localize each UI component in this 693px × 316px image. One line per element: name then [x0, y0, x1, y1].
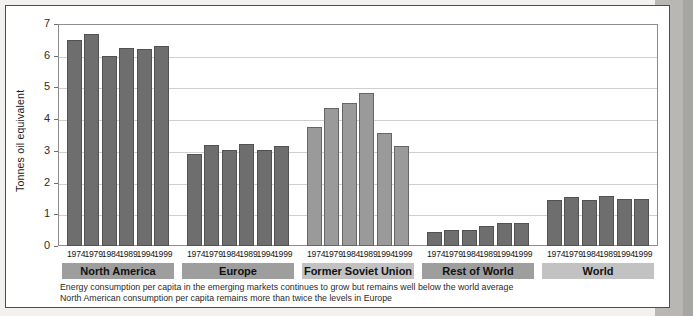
x-axis-tick-1994: 1994 [617, 249, 632, 259]
bar [342, 103, 357, 246]
bar [394, 146, 409, 246]
group-band-slot: World [538, 263, 658, 279]
year-label-group: 197419791984198919941999 [58, 247, 178, 260]
x-axis-tick-1979: 1979 [84, 249, 99, 259]
bar-group-europe [178, 24, 298, 246]
y-axis-tick-5: 5 [28, 80, 50, 92]
x-axis-tick-1984: 1984 [222, 249, 237, 259]
x-axis-tick-1989: 1989 [119, 249, 134, 259]
bar [102, 56, 117, 246]
x-axis-tick-1994: 1994 [137, 249, 152, 259]
bar [84, 34, 99, 246]
group-label-world: World [542, 263, 654, 279]
chart-frame: Tonnes oil equivalent 01234567 197419791… [5, 5, 670, 308]
year-label-group: 197419791984198919941999 [418, 247, 538, 260]
x-axis-tick-1999: 1999 [634, 249, 649, 259]
bar [187, 154, 202, 246]
x-axis-tick-1984: 1984 [582, 249, 597, 259]
x-axis-tick-1994: 1994 [257, 249, 272, 259]
x-axis-tick-1974: 1974 [307, 249, 322, 259]
y-axis-tick-1: 1 [28, 207, 50, 219]
bar [444, 230, 459, 246]
x-axis-tick-1974: 1974 [67, 249, 82, 259]
x-axis-tick-1979: 1979 [204, 249, 219, 259]
bar [377, 133, 392, 246]
x-axis-tick-1999: 1999 [514, 249, 529, 259]
bar [599, 196, 614, 246]
group-band-slot: Rest of World [418, 263, 538, 279]
y-axis-tick-0: 0 [28, 239, 50, 251]
x-axis-tick-1994: 1994 [497, 249, 512, 259]
bar [479, 226, 494, 246]
bar-group-former-soviet-union [298, 24, 418, 246]
bar [547, 200, 562, 246]
bar [154, 46, 169, 246]
group-label-north-america: North America [62, 263, 174, 279]
bar [462, 230, 477, 246]
bar [564, 197, 579, 246]
bar [514, 223, 529, 246]
x-axis-tick-1984: 1984 [342, 249, 357, 259]
x-axis-tick-1989: 1989 [479, 249, 494, 259]
x-axis-tick-1979: 1979 [324, 249, 339, 259]
group-band-slot: Europe [178, 263, 298, 279]
chart-caption: Energy consumption per capita in the eme… [60, 282, 660, 305]
bar [257, 150, 272, 246]
x-axis-tick-1994: 1994 [377, 249, 392, 259]
year-label-group: 197419791984198919941999 [178, 247, 298, 260]
caption-line-1: Energy consumption per capita in the eme… [60, 282, 660, 293]
group-label-rest-of-world: Rest of World [422, 263, 534, 279]
group-label-europe: Europe [182, 263, 294, 279]
bar-group-north-america [58, 24, 178, 246]
x-axis-tick-1989: 1989 [239, 249, 254, 259]
bar [222, 150, 237, 246]
x-axis-tick-1974: 1974 [187, 249, 202, 259]
bar [204, 145, 219, 246]
x-axis-year-labels: 1974197919841989199419991974197919841989… [58, 247, 658, 260]
bar [324, 108, 339, 246]
figure-panel: Tonnes oil equivalent 01234567 197419791… [0, 0, 693, 316]
group-band-slot: Former Soviet Union [298, 263, 418, 279]
x-axis-tick-1979: 1979 [564, 249, 579, 259]
scan-edge-strip-inner [683, 0, 693, 316]
y-axis-tick-4: 4 [28, 112, 50, 124]
bar-group-world [538, 24, 658, 246]
caption-line-2: North American consumption per capita re… [60, 293, 660, 304]
bar [239, 144, 254, 246]
bar [137, 49, 152, 246]
x-axis-tick-1999: 1999 [394, 249, 409, 259]
bar-groups [58, 24, 658, 246]
y-axis-tick-3: 3 [28, 144, 50, 156]
bar [274, 146, 289, 246]
x-axis-tick-1989: 1989 [599, 249, 614, 259]
y-axis-tick-2: 2 [28, 176, 50, 188]
bar [307, 127, 322, 246]
bar [359, 93, 374, 246]
year-label-group: 197419791984198919941999 [538, 247, 658, 260]
bar [67, 40, 82, 246]
bar [634, 199, 649, 246]
x-axis-tick-1999: 1999 [274, 249, 289, 259]
x-axis-tick-1974: 1974 [547, 249, 562, 259]
bar [582, 200, 597, 246]
y-axis-tick-7: 7 [28, 17, 50, 29]
x-axis-tick-1984: 1984 [102, 249, 117, 259]
bar [497, 223, 512, 246]
x-axis-tick-1984: 1984 [462, 249, 477, 259]
bar [119, 48, 134, 246]
group-band-slot: North America [58, 263, 178, 279]
year-label-group: 197419791984198919941999 [298, 247, 418, 260]
group-name-bands: North AmericaEuropeFormer Soviet UnionRe… [58, 263, 658, 279]
bar [617, 199, 632, 246]
x-axis-tick-1989: 1989 [359, 249, 374, 259]
x-axis-tick-1999: 1999 [154, 249, 169, 259]
x-axis-tick-1979: 1979 [444, 249, 459, 259]
group-label-former-soviet-union: Former Soviet Union [302, 263, 414, 279]
bar [427, 232, 442, 246]
x-axis-tick-1974: 1974 [427, 249, 442, 259]
bar-group-rest-of-world [418, 24, 538, 246]
y-axis-tick-6: 6 [28, 49, 50, 61]
